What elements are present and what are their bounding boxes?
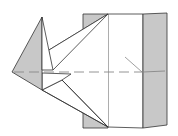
- upper-white-fill: [42, 14, 108, 127]
- peak-white-strip: [42, 17, 53, 70]
- left-gray-flap: [12, 17, 42, 90]
- origami-diagram: [0, 0, 178, 136]
- right-gray-panel: [143, 13, 167, 128]
- center-white-panel: [108, 14, 143, 128]
